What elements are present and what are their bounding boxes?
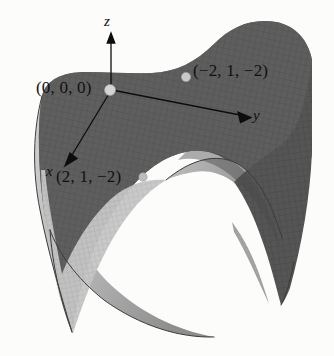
point-label-2-1-neg2: (2, 1, −2) [56,168,121,185]
axis-label-x: x [46,164,53,179]
point-label-origin: (0, 0, 0) [36,79,92,96]
marker-point-neg2-1-neg2 [181,72,190,81]
axis-arrow-z [107,33,115,43]
axis-label-y: y [253,108,260,123]
axis-label-z: z [104,14,110,29]
marker-point-2-1-neg2 [139,173,147,181]
surface-plot-figure: (0, 0, 0) (−2, 1, −2) (2, 1, −2) z y x [0,0,334,356]
point-label-neg2-1-neg2: (−2, 1, −2) [193,62,268,79]
marker-origin [105,85,116,96]
